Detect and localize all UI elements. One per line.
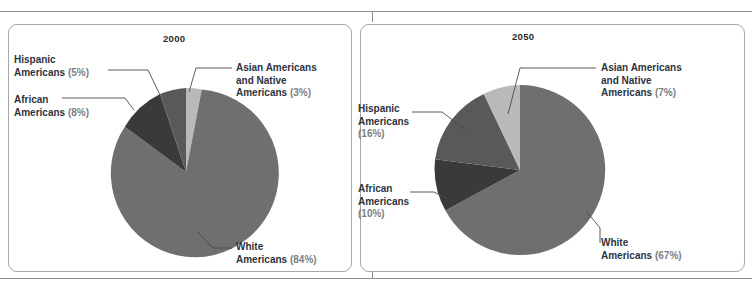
- label-asian-native-2050-pct: (7%): [655, 87, 676, 98]
- figure-root: 2000 Hispanic Americans (5%) African Ame…: [0, 0, 752, 288]
- label-hispanic-2050: Hispanic Americans (16%): [358, 103, 438, 141]
- label-white-2050-pct: (67%): [655, 250, 682, 261]
- label-african-2050-pct: (10%): [358, 208, 385, 219]
- label-hispanic-2050-text: Hispanic Americans: [358, 103, 409, 127]
- label-african-2050: African Americans (10%): [358, 183, 438, 221]
- label-white-2050: White Americans (67%): [601, 237, 719, 262]
- label-hispanic-2050-pct: (16%): [358, 128, 385, 139]
- leader-white-2050: [587, 212, 600, 243]
- label-african-2050-text: African Americans: [358, 183, 409, 207]
- leader-asian-2050: [508, 68, 596, 114]
- label-asian-native-2050: Asian Americans and Native Americans (7%…: [601, 62, 713, 100]
- label-white-2050-text: White Americans: [601, 237, 655, 261]
